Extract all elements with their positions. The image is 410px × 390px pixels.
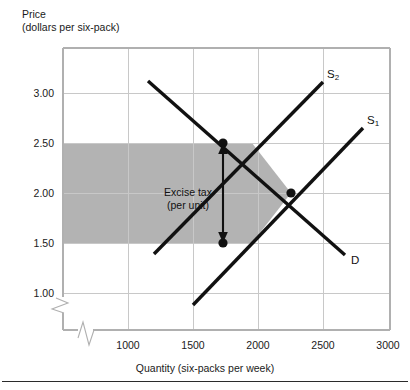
bottom-divider-rule (2, 381, 408, 382)
x-tick-2500: 2500 (298, 339, 348, 351)
curve-label-s1: S1 (367, 114, 379, 126)
x-tick-2000: 2000 (233, 339, 283, 351)
curve-label-s2-sub: 2 (335, 73, 339, 82)
curve-label-s2: S2 (327, 68, 339, 80)
y-tick-3-00: 3.00 (16, 87, 54, 99)
y-axis-break-icon (52, 298, 68, 313)
excise-tax-annotation: Excise tax (per unit) (152, 186, 224, 212)
y-tick-1-50: 1.50 (16, 237, 54, 249)
y-tick-1-00: 1.00 (16, 287, 54, 299)
y-tick-2-00: 2.00 (16, 187, 54, 199)
curve-label-s1-text: S (367, 114, 375, 126)
excise-tax-annotation-line2: (per unit) (152, 199, 224, 212)
y-tick-2-50: 2.50 (16, 137, 54, 149)
x-tick-1500: 1500 (168, 339, 218, 351)
curve-label-d: D (351, 254, 359, 266)
x-tick-3000: 3000 (363, 339, 410, 351)
excise-tax-chart: Price (dollars per six-pack) 3.00 2.50 2… (0, 0, 410, 390)
x-axis-break-icon (78, 322, 94, 345)
curve-label-s1-sub: 1 (375, 119, 379, 128)
y-axis-title-line2: (dollars per six-pack) (22, 21, 119, 34)
before-tax-equilibrium-point (286, 188, 295, 197)
excise-tax-annotation-line1: Excise tax (152, 186, 224, 199)
x-tick-1000: 1000 (103, 339, 153, 351)
y-axis-title-line1: Price (22, 8, 119, 21)
x-axis-title: Quantity (six-packs per week) (0, 362, 410, 375)
y-axis-title: Price (dollars per six-pack) (22, 8, 119, 34)
curve-label-s2-text: S (327, 68, 335, 80)
